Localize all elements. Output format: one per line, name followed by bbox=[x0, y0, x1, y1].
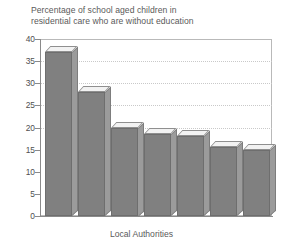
bar-front-face bbox=[243, 150, 270, 216]
bar-chart: Percentage of school aged children in re… bbox=[0, 0, 283, 252]
bar-side-face bbox=[270, 144, 276, 216]
bar-front-face bbox=[45, 52, 72, 216]
bar bbox=[78, 86, 105, 216]
bar bbox=[111, 122, 138, 217]
bar-series bbox=[0, 0, 283, 252]
bar-front-face bbox=[177, 136, 204, 216]
bar bbox=[210, 141, 237, 216]
bar bbox=[144, 128, 171, 216]
bar bbox=[177, 130, 204, 216]
bar-front-face bbox=[144, 134, 171, 216]
bar bbox=[243, 144, 270, 216]
bar bbox=[45, 46, 72, 216]
bar-front-face bbox=[78, 92, 105, 216]
bar-front-face bbox=[111, 128, 138, 217]
bar-front-face bbox=[210, 147, 237, 216]
